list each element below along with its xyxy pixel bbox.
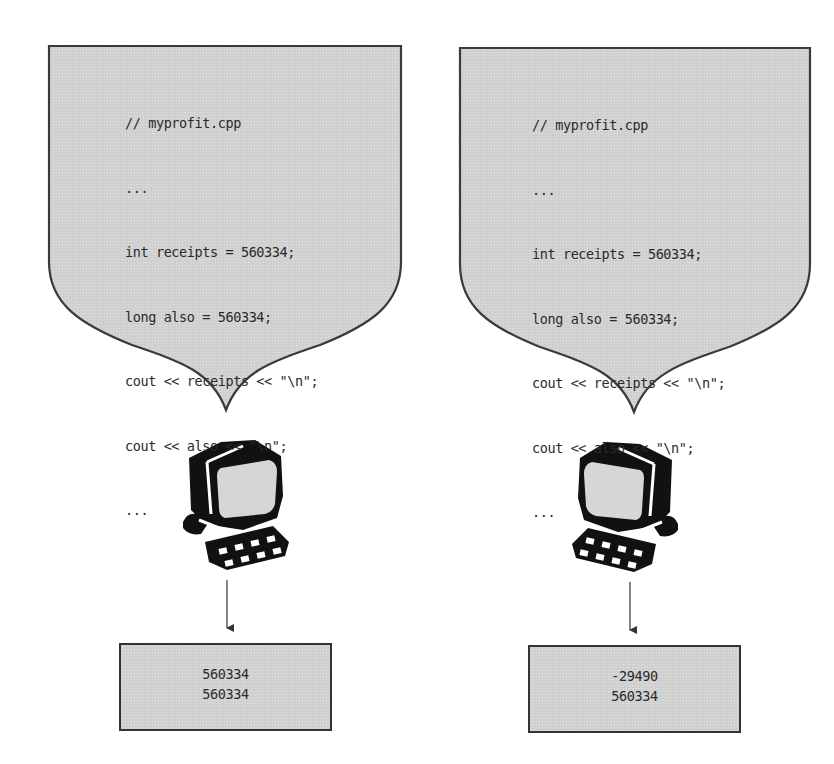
- left-code-listing: // myprofit.cpp ... int receipts = 56033…: [125, 70, 318, 565]
- code-line: ...: [125, 178, 318, 200]
- diagram: // myprofit.cpp ... int receipts = 56033…: [0, 0, 834, 764]
- code-line: cout << receipts << "\n";: [125, 371, 318, 393]
- code-line: int receipts = 560334;: [125, 242, 318, 264]
- code-line: // myprofit.cpp: [532, 115, 725, 137]
- output-line: 560334: [120, 684, 331, 704]
- code-line: cout << receipts << "\n";: [532, 373, 725, 395]
- code-line: cout << also << "\n";: [125, 436, 318, 458]
- left-output-box: 560334 560334: [120, 644, 331, 730]
- output-line: -29490: [529, 666, 740, 686]
- right-code-listing: // myprofit.cpp ... int receipts = 56033…: [532, 72, 725, 567]
- code-line: long also = 560334;: [125, 307, 318, 329]
- code-line: ...: [532, 180, 725, 202]
- code-line: cout << also << "\n";: [532, 438, 725, 460]
- output-line: 560334: [529, 686, 740, 706]
- code-line: int receipts = 560334;: [532, 244, 725, 266]
- code-line: ...: [125, 500, 318, 522]
- right-output-box: -29490 560334: [529, 646, 740, 732]
- output-line: 560334: [120, 664, 331, 684]
- code-line: long also = 560334;: [532, 309, 725, 331]
- code-line: // myprofit.cpp: [125, 113, 318, 135]
- code-line: ...: [532, 502, 725, 524]
